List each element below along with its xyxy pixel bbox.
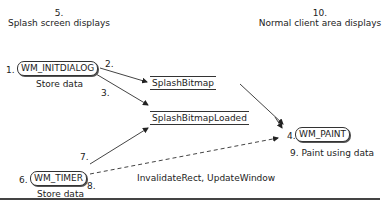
step-1-number: 1.	[6, 65, 15, 75]
step-6-number: 6.	[19, 175, 28, 185]
step-text: Splash screen displays	[5, 18, 113, 28]
wm-timer-node: WM_TIMER	[30, 171, 87, 186]
step-5-label: 5. Splash screen displays	[5, 8, 113, 28]
paint-using-data: 9. Paint using data	[290, 148, 374, 158]
initdialog-store-data: Store data	[36, 79, 83, 89]
edge-2-label: 2.	[105, 59, 114, 69]
splash-bitmap-loaded-store: SplashBitmapLoaded	[150, 111, 249, 125]
step-number: 10.	[258, 8, 382, 18]
edge-7-label: 7.	[80, 152, 89, 162]
edge-8-label: 8.	[87, 181, 96, 191]
step-number: 5.	[5, 8, 113, 18]
splash-bitmap-store: SplashBitmap	[150, 76, 216, 90]
wm-initdialog-node: WM_INITDIALOG	[17, 61, 98, 76]
invalidate-update-label: InvalidateRect, UpdateWindow	[137, 173, 275, 183]
step-10-label: 10. Normal client area displays	[258, 8, 382, 28]
wm-paint-node: WM_PAINT	[295, 127, 350, 142]
step-text: Normal client area displays	[258, 18, 382, 28]
edge-3-label: 3.	[101, 88, 110, 98]
bottom-rule	[0, 198, 380, 200]
